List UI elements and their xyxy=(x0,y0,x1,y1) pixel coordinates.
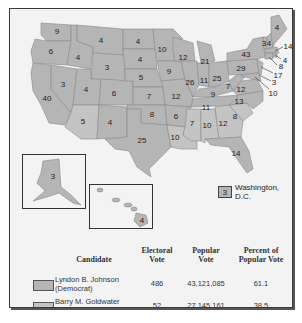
candidate-party: (Democrat) xyxy=(55,284,119,293)
svg-text:3: 3 xyxy=(51,172,56,181)
svg-text:10: 10 xyxy=(171,133,180,142)
dc-legend: 3 Washington, D.C. xyxy=(218,183,292,201)
candidate-party: (Republican) xyxy=(55,306,120,308)
svg-text:8: 8 xyxy=(150,110,155,119)
dc-label: Washington, D.C. xyxy=(235,183,292,201)
svg-text:12: 12 xyxy=(237,85,246,94)
electoral-vote: 52 xyxy=(137,301,177,308)
svg-text:4: 4 xyxy=(283,56,288,65)
svg-text:4: 4 xyxy=(267,39,272,48)
svg-text:4: 4 xyxy=(108,118,113,127)
svg-text:3: 3 xyxy=(272,78,277,87)
svg-text:25: 25 xyxy=(138,136,147,145)
state-florida xyxy=(205,137,253,173)
svg-text:4: 4 xyxy=(84,85,89,94)
percent-popular-vote: 38.5 xyxy=(231,301,291,308)
electoral-vote: 486 xyxy=(137,279,177,288)
table-row-johnson: Lyndon B. Johnson (Democrat) 486 43,121,… xyxy=(19,275,281,297)
svg-text:9: 9 xyxy=(167,67,172,76)
svg-text:4: 4 xyxy=(140,216,145,225)
svg-text:7: 7 xyxy=(190,119,195,128)
svg-text:7: 7 xyxy=(226,82,231,91)
svg-text:10: 10 xyxy=(158,45,167,54)
state-connecticut xyxy=(265,53,273,59)
svg-text:25: 25 xyxy=(213,74,222,83)
svg-text:4: 4 xyxy=(138,55,143,64)
dc-votes-box: 3 xyxy=(218,186,232,198)
svg-text:6: 6 xyxy=(174,112,179,121)
republican-swatch xyxy=(33,302,54,308)
header-percent-popular-vote: Percent ofPopular Vote xyxy=(231,246,291,264)
percent-popular-vote: 61.1 xyxy=(231,279,291,288)
popular-vote: 43,121,085 xyxy=(181,279,231,288)
svg-text:12: 12 xyxy=(179,53,188,62)
election-map-figure: 9 6 40 4 3 4 3 4 5 6 4 4 4 5 7 8 25 10 9… xyxy=(9,8,293,308)
svg-text:6: 6 xyxy=(49,47,54,56)
svg-text:40: 40 xyxy=(43,94,52,103)
table-row-goldwater: Barry M. Goldwater (Republican) 52 27,14… xyxy=(19,297,281,308)
svg-text:29: 29 xyxy=(237,64,246,73)
svg-text:9: 9 xyxy=(211,90,216,99)
svg-text:21: 21 xyxy=(201,57,210,66)
header-candidate: Candidate xyxy=(59,255,129,264)
svg-text:4: 4 xyxy=(136,37,141,46)
svg-text:9: 9 xyxy=(55,27,60,36)
svg-text:4: 4 xyxy=(275,23,280,32)
svg-text:14: 14 xyxy=(232,149,241,158)
svg-text:13: 13 xyxy=(235,97,244,106)
svg-text:6: 6 xyxy=(112,89,117,98)
header-popular-vote: PopularVote xyxy=(181,246,231,264)
svg-text:11: 11 xyxy=(200,76,209,85)
svg-text:4: 4 xyxy=(76,53,81,62)
svg-text:10: 10 xyxy=(269,89,278,98)
svg-text:8: 8 xyxy=(279,62,284,71)
candidate-name: Barry M. Goldwater xyxy=(55,297,120,306)
svg-text:26: 26 xyxy=(186,78,195,87)
svg-text:43: 43 xyxy=(242,50,251,59)
svg-text:3: 3 xyxy=(61,80,66,89)
svg-text:5: 5 xyxy=(139,73,144,82)
democrat-swatch xyxy=(33,280,54,291)
svg-text:7: 7 xyxy=(147,92,152,101)
svg-text:11: 11 xyxy=(202,103,211,112)
svg-text:12: 12 xyxy=(172,92,181,101)
candidate-name: Lyndon B. Johnson xyxy=(55,275,119,284)
svg-text:4: 4 xyxy=(99,36,104,45)
svg-text:12: 12 xyxy=(219,119,228,128)
svg-text:3: 3 xyxy=(105,63,110,72)
svg-text:8: 8 xyxy=(233,112,238,121)
svg-text:5: 5 xyxy=(81,117,86,126)
state-alaska xyxy=(33,159,81,205)
svg-text:10: 10 xyxy=(203,121,212,130)
svg-text:14: 14 xyxy=(284,42,293,51)
hawaii-inset: 4 xyxy=(89,184,153,229)
popular-vote: 27,145,161 xyxy=(181,301,231,308)
alaska-inset: 3 xyxy=(22,154,86,209)
header-electoral-vote: ElectoralVote xyxy=(137,246,177,264)
